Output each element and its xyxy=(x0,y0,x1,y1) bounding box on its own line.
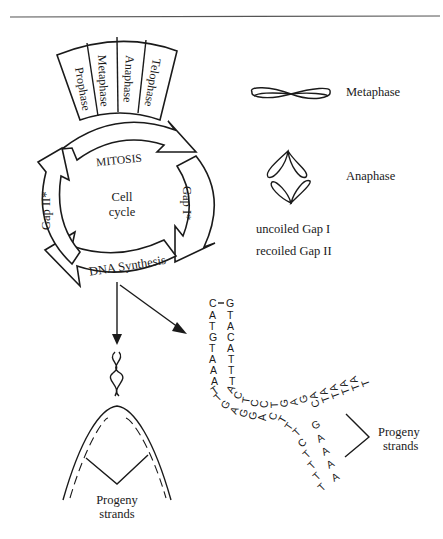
gap1-label: Gap I* xyxy=(180,186,194,220)
mitosis-label: MITOSIS xyxy=(95,152,142,169)
right-progeny-label-1: Progeny xyxy=(378,425,420,439)
anaphase-label: Anaphase xyxy=(346,169,396,183)
metaphase-label: Metaphase xyxy=(346,85,401,99)
svg-text:T: T xyxy=(305,458,318,471)
top-rule xyxy=(10,16,440,17)
svg-text:T: T xyxy=(358,378,372,389)
phase-metaphase: Metaphase xyxy=(95,54,112,107)
center-label-cell: Cell xyxy=(112,190,133,204)
svg-text:G: G xyxy=(309,417,322,431)
right-replication-fork: C G A T G T A A A T T A C A T T T A C T … xyxy=(208,297,372,493)
svg-text:C: C xyxy=(209,297,217,309)
svg-text:T: T xyxy=(315,480,328,493)
gap2-label: Gap II* xyxy=(39,191,53,230)
note-recoiled-gap2: recoiled Gap II xyxy=(256,244,332,258)
svg-text:A: A xyxy=(314,431,326,445)
phase-anaphase: Anaphase xyxy=(121,55,137,103)
svg-text:G: G xyxy=(226,297,234,309)
left-progeny-label-2: strands xyxy=(99,507,135,521)
note-uncoiled-gap1: uncoiled Gap I xyxy=(256,222,330,236)
svg-text:T: T xyxy=(290,425,303,438)
cell-cycle-diagram: Prophase Metaphase Anaphase Telophase MI… xyxy=(0,0,443,539)
svg-text:T: T xyxy=(310,469,323,482)
left-progeny-label-1: Progeny xyxy=(96,493,138,507)
right-progeny-label-2: strands xyxy=(383,439,419,453)
anaphase-chromosome-icon xyxy=(267,151,310,203)
svg-text:A: A xyxy=(324,457,336,471)
svg-text:T: T xyxy=(300,447,313,460)
left-replication-fork xyxy=(63,352,171,500)
arrow-diagonal xyxy=(120,285,182,330)
metaphase-chromosome-icon xyxy=(252,88,331,99)
svg-text:A: A xyxy=(319,444,331,458)
arrowhead-down xyxy=(112,334,122,345)
svg-text:A: A xyxy=(329,470,341,484)
center-label-cycle: cycle xyxy=(109,205,136,219)
